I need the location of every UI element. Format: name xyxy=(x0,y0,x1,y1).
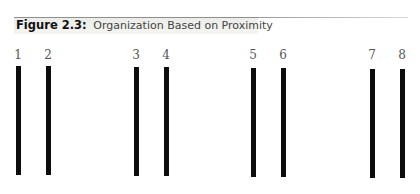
caption-rule xyxy=(258,17,408,18)
vertical-line xyxy=(251,68,256,177)
line-label: 8 xyxy=(395,48,409,62)
vertical-line xyxy=(164,67,169,176)
figure-title: Organization Based on Proximity xyxy=(93,19,273,32)
vertical-line xyxy=(370,69,375,178)
line-label: 1 xyxy=(11,48,25,62)
line-label: 7 xyxy=(365,48,379,62)
figure-number: Figure 2.3: xyxy=(16,18,87,32)
figure-caption: Figure 2.3: Organization Based on Proxim… xyxy=(16,18,273,33)
vertical-line xyxy=(46,66,51,175)
line-label: 2 xyxy=(41,48,55,62)
vertical-line xyxy=(400,69,405,178)
vertical-line xyxy=(134,67,139,176)
vertical-line xyxy=(281,68,286,177)
line-label: 3 xyxy=(129,48,143,62)
line-label: 4 xyxy=(159,48,173,62)
vertical-line xyxy=(16,66,21,175)
line-label: 5 xyxy=(246,48,260,62)
line-label: 6 xyxy=(276,48,290,62)
